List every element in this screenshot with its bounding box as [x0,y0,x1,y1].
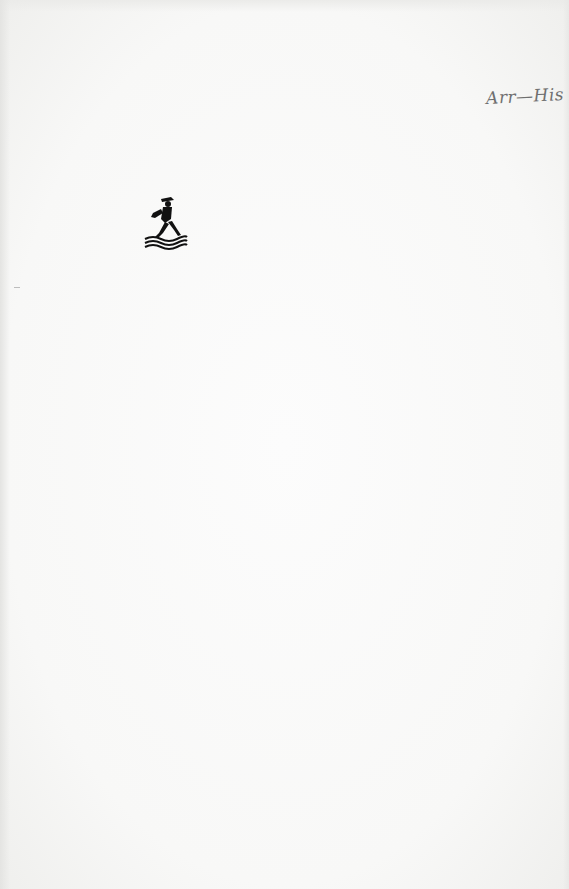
handwritten-note: Arr—His [486,84,565,108]
page-binding-edge [0,0,10,889]
publisher-logo-walking-figure-icon [141,193,189,251]
page-right-edge [563,0,569,889]
publisher-colophon [141,193,189,251]
book-page: Arr—His [0,0,569,889]
margin-mark [14,287,20,288]
page-top-edge [0,0,569,12]
